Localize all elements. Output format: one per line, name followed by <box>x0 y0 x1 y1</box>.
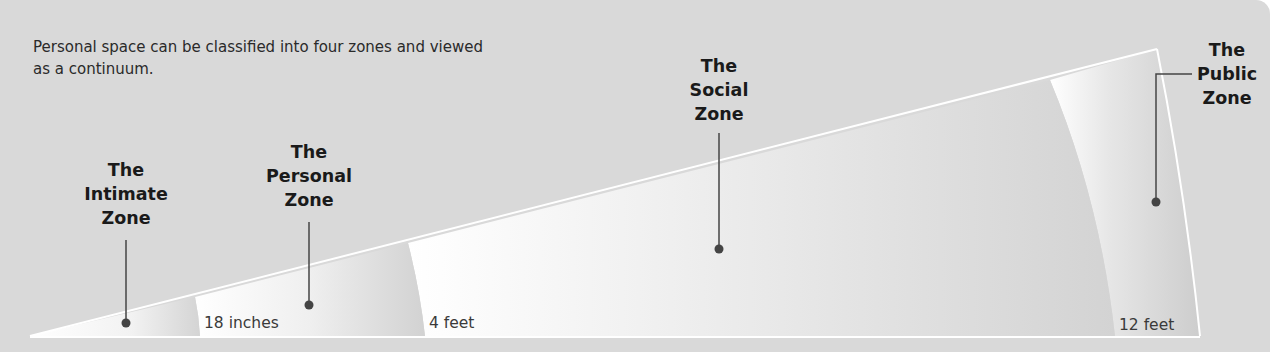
label-line: Zone <box>1192 86 1262 110</box>
caption-text: Personal space can be classified into fo… <box>33 36 493 80</box>
personal-zone-label: The Personal Zone <box>259 140 359 212</box>
label-line: Intimate <box>76 182 176 206</box>
boundary-18-inches: 18 inches <box>204 314 279 332</box>
label-line: Social <box>669 78 769 102</box>
label-line: Zone <box>76 206 176 230</box>
label-line: The <box>1192 38 1262 62</box>
label-line: The <box>669 54 769 78</box>
public-zone-label: The Public Zone <box>1192 38 1262 110</box>
boundary-12-feet: 12 feet <box>1119 316 1174 334</box>
boundary-4-feet: 4 feet <box>429 314 474 332</box>
label-line: Zone <box>259 188 359 212</box>
diagram-panel: Personal space can be classified into fo… <box>0 0 1270 352</box>
social-zone-label: The Social Zone <box>669 54 769 126</box>
label-line: The <box>259 140 359 164</box>
intimate-zone-label: The Intimate Zone <box>76 158 176 230</box>
label-line: Personal <box>259 164 359 188</box>
label-line: Zone <box>669 102 769 126</box>
label-line: The <box>76 158 176 182</box>
label-line: Public <box>1192 62 1262 86</box>
